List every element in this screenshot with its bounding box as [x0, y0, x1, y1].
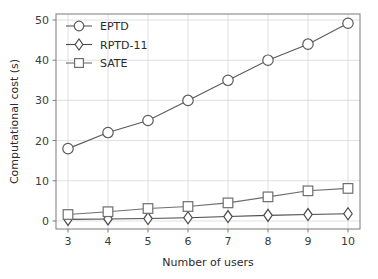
- y-axis-title: Computational cost (s): [8, 59, 21, 184]
- diamond-marker: [304, 209, 312, 221]
- square-marker: [103, 207, 113, 217]
- y-tick-label: 50: [35, 14, 49, 27]
- square-marker: [143, 204, 153, 214]
- circle-marker: [183, 95, 193, 105]
- x-tick-label: 4: [105, 235, 112, 248]
- diamond-marker: [75, 39, 83, 50]
- y-tick-label: 30: [35, 94, 49, 107]
- y-tick-label: 40: [35, 54, 49, 67]
- legend-label-sate: SATE: [100, 57, 128, 70]
- line-chart: 01020304050345678910Number of usersCompu…: [0, 0, 378, 279]
- square-marker: [303, 186, 313, 196]
- circle-marker: [223, 75, 233, 85]
- square-marker: [183, 202, 193, 212]
- x-tick-label: 6: [185, 235, 192, 248]
- circle-marker: [143, 115, 153, 125]
- x-tick-label: 10: [341, 235, 355, 248]
- x-tick-label: 7: [225, 235, 232, 248]
- square-marker: [263, 192, 273, 202]
- circle-marker: [263, 55, 273, 65]
- x-axis-title: Number of users: [162, 256, 254, 269]
- diamond-marker: [264, 209, 272, 221]
- legend-label-rptd-11: RPTD-11: [100, 39, 147, 52]
- x-tick-label: 8: [265, 235, 272, 248]
- x-tick-label: 9: [305, 235, 312, 248]
- chart-figure: 01020304050345678910Number of usersCompu…: [0, 0, 378, 279]
- diamond-marker: [144, 213, 152, 225]
- legend-label-eptd: EPTD: [100, 20, 129, 33]
- square-marker: [223, 198, 233, 208]
- y-tick-label: 0: [42, 215, 49, 228]
- circle-marker: [74, 21, 84, 31]
- diamond-marker: [344, 208, 352, 220]
- square-marker: [63, 210, 73, 220]
- legend: EPTDRPTD-11SATE: [66, 20, 147, 70]
- x-tick-label: 5: [145, 235, 152, 248]
- x-tick-label: 3: [65, 235, 72, 248]
- diamond-marker: [184, 212, 192, 224]
- square-marker: [343, 184, 353, 194]
- circle-marker: [303, 39, 313, 49]
- square-marker: [75, 59, 84, 68]
- y-tick-label: 10: [35, 175, 49, 188]
- circle-marker: [343, 18, 353, 28]
- circle-marker: [63, 143, 73, 153]
- circle-marker: [103, 127, 113, 137]
- y-tick-label: 20: [35, 135, 49, 148]
